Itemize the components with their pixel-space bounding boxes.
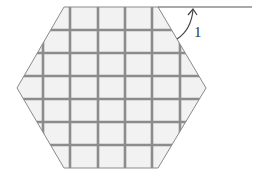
angle-arc bbox=[177, 10, 193, 39]
angle-label: 1 bbox=[194, 24, 202, 40]
hexagon-grid-diagram: 1 bbox=[0, 0, 262, 181]
